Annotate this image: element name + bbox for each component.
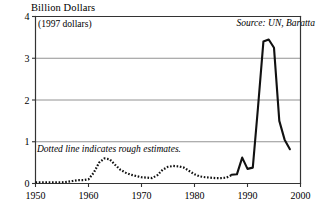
ytick-label-2: 2 bbox=[25, 95, 30, 106]
xtick-label-1980: 1980 bbox=[185, 190, 205, 201]
xtick-label-1990: 1990 bbox=[238, 190, 258, 201]
axis-ticks-group bbox=[32, 17, 301, 188]
plot-area: 01234 195019601970198019902000 bbox=[0, 0, 321, 210]
x-axis-tick-labels: 195019601970198019902000 bbox=[26, 190, 311, 201]
y-axis-tick-labels: 01234 bbox=[25, 11, 30, 189]
xtick-label-1970: 1970 bbox=[132, 190, 152, 201]
series-line-1 bbox=[232, 39, 290, 174]
xtick-label-1960: 1960 bbox=[79, 190, 99, 201]
xtick-label-1950: 1950 bbox=[26, 190, 46, 201]
xtick-label-2000: 2000 bbox=[291, 190, 311, 201]
ytick-label-1: 1 bbox=[25, 136, 30, 147]
data-series-group bbox=[36, 39, 290, 182]
ytick-label-3: 3 bbox=[25, 53, 30, 64]
ytick-label-4: 4 bbox=[25, 11, 30, 22]
chart-container: Billion Dollars (1997 dollars) Source: U… bbox=[0, 0, 321, 210]
series-line-0 bbox=[36, 158, 232, 182]
ytick-label-0: 0 bbox=[25, 178, 30, 189]
